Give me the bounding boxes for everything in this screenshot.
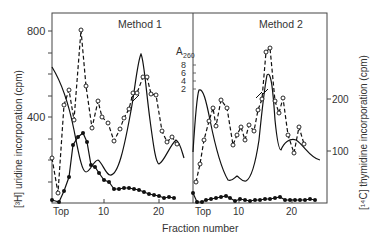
ytick-left-400: 400 xyxy=(27,111,45,123)
right-y-axis-ticks xyxy=(327,99,331,151)
ytick-right-100: 100 xyxy=(332,146,349,157)
xtick-panel2-20: 20 xyxy=(286,206,298,217)
panel1-thymidine-line xyxy=(52,30,177,193)
plot-frame xyxy=(52,13,327,203)
panel1-title: Method 1 xyxy=(118,18,162,30)
y-axis-right-label: [¹⁴C] thymidine incorporation (cpm) xyxy=(358,55,369,210)
chart: 800 400 200 100 A 260 8 6 4 2 Top 10 20 … xyxy=(0,0,380,242)
y-axis-left-label: [³H] uridine incorporation (cpm) xyxy=(13,70,24,208)
ytick-left-800: 800 xyxy=(27,25,45,37)
xtick-panel1-20: 20 xyxy=(153,206,165,217)
panel2-thymidine-line xyxy=(196,48,304,182)
a260-subscript: 260 xyxy=(183,52,195,59)
xtick-panel2-10: 10 xyxy=(233,206,245,217)
xtick-panel1-10: 10 xyxy=(98,206,110,217)
xtick-panel2-top: Top xyxy=(195,206,212,217)
panel2-uridine-markers xyxy=(191,191,317,204)
xtick-panel1-top: Top xyxy=(53,206,70,217)
ytick-right-200: 200 xyxy=(332,94,349,105)
panel2-title: Method 2 xyxy=(259,18,303,30)
x-axis-label: Fraction number xyxy=(162,222,239,234)
a260-tick-2: 2 xyxy=(181,84,186,94)
a260-label: A xyxy=(176,46,183,57)
panel1-uridine-line xyxy=(52,133,174,202)
